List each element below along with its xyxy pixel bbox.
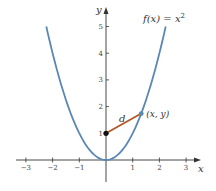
x-tick-label: 1 — [130, 164, 134, 172]
y-tick-label: 3 — [99, 76, 103, 84]
function-label-exponent: 2 — [181, 12, 185, 20]
x-tick-label: −1 — [74, 164, 84, 172]
x-tick-label: −3 — [21, 164, 31, 172]
axes: −3−2−1123 12345 x y — [16, 4, 204, 182]
y-tick-label: 2 — [99, 103, 103, 111]
point-label: (x, y) — [146, 109, 169, 119]
y-tick-label: 1 — [99, 130, 103, 138]
x-axis-label: x — [198, 163, 204, 174]
y-axis-label: y — [95, 4, 102, 15]
y-tick-label: 5 — [99, 23, 103, 31]
function-label: f(x) = x2 — [142, 12, 185, 24]
y-tick-label: 4 — [99, 50, 104, 58]
function-plot: −3−2−1123 12345 x y d (x, y) f(x) = x2 — [0, 0, 216, 191]
y-axis-arrow-icon — [104, 7, 109, 14]
x-axis-arrow-icon — [194, 158, 201, 163]
distance-label: d — [119, 113, 125, 124]
function-label-base: f(x) = x — [142, 13, 181, 24]
fixed-point-marker — [103, 131, 108, 136]
curve-point-marker — [139, 111, 144, 116]
y-ticks: 12345 — [99, 23, 109, 138]
x-tick-label: −2 — [47, 164, 57, 172]
x-tick-label: 2 — [157, 164, 161, 172]
x-tick-label: 3 — [184, 164, 188, 172]
